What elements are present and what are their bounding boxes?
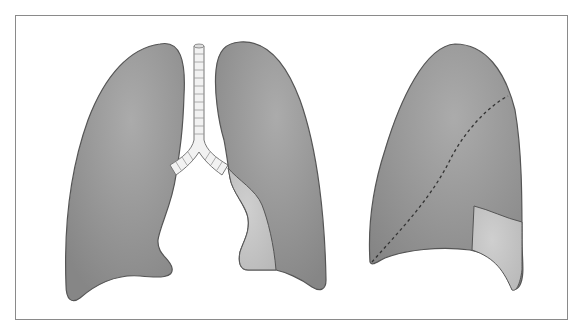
lung-diagram xyxy=(0,0,582,333)
right-lung-frontal xyxy=(66,43,185,300)
